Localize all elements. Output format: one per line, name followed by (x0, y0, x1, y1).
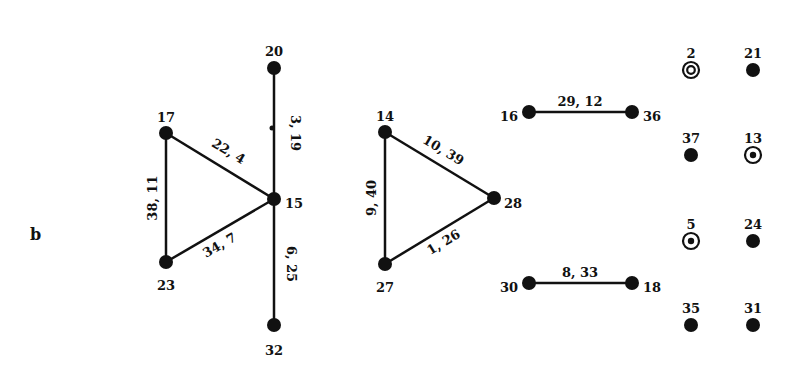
edge-label: 8, 33 (562, 265, 598, 280)
graph-diagram: b 3, 196, 2522, 438, 1134, 710, 399, 401… (0, 0, 802, 368)
node-label: 5 (686, 217, 695, 232)
filled-node-icon (746, 63, 760, 77)
node-31 (746, 318, 760, 332)
filled-node-icon (378, 257, 392, 271)
node-label: 37 (682, 131, 700, 146)
node-labels-layer: 20171523321428271636301822137135243531 (157, 44, 762, 358)
filled-node-icon (378, 125, 392, 139)
filled-node-icon (522, 276, 536, 290)
node-13 (745, 147, 761, 163)
filled-node-icon (159, 255, 173, 269)
nodes-layer (159, 61, 761, 332)
node-label: 28 (504, 196, 522, 211)
edge-label: 9, 40 (364, 180, 379, 216)
node-label: 27 (376, 280, 394, 295)
node-label: 17 (157, 110, 175, 125)
marks-layer (270, 126, 275, 131)
filled-node-icon (684, 148, 698, 162)
filled-node-icon (267, 318, 281, 332)
edge-label: 1, 26 (424, 226, 463, 258)
filled-node-icon (267, 192, 281, 206)
node-label: 16 (500, 109, 518, 124)
node-5 (683, 233, 699, 249)
node-label: 14 (376, 109, 394, 124)
panel-label: b (30, 225, 41, 244)
node-18 (625, 276, 639, 290)
filled-node-icon (267, 61, 281, 75)
node-label: 24 (744, 217, 762, 232)
node-16 (522, 105, 536, 119)
node-label: 18 (643, 280, 661, 295)
node-label: 35 (682, 301, 700, 316)
node-label: 23 (157, 278, 175, 293)
node-label: 21 (744, 46, 762, 61)
node-35 (684, 318, 698, 332)
node-label: 30 (500, 280, 518, 295)
node-15 (267, 192, 281, 206)
node-36 (625, 105, 639, 119)
tick-mark (270, 126, 275, 131)
edge-label: 3, 19 (288, 115, 303, 151)
node-20 (267, 61, 281, 75)
node-28 (487, 191, 501, 205)
filled-node-icon (625, 276, 639, 290)
filled-node-icon (625, 105, 639, 119)
node-label: 15 (285, 196, 303, 211)
edge-label: 34, 7 (200, 230, 239, 261)
node-17 (159, 126, 173, 140)
node-label: 36 (643, 109, 661, 124)
filled-node-icon (487, 191, 501, 205)
node-14 (378, 125, 392, 139)
node-21 (746, 63, 760, 77)
node-24 (746, 234, 760, 248)
node-label: 20 (265, 44, 283, 59)
node-23 (159, 255, 173, 269)
filled-node-icon (684, 318, 698, 332)
node-37 (684, 148, 698, 162)
filled-node-icon (159, 126, 173, 140)
edge-label: 6, 25 (284, 246, 299, 282)
double-ring-node-icon (683, 62, 699, 78)
edge-27-28 (385, 198, 494, 264)
filled-node-icon (522, 105, 536, 119)
edge-labels-layer: 3, 196, 2522, 438, 1134, 710, 399, 401, … (145, 94, 603, 283)
node-2 (683, 62, 699, 78)
node-30 (522, 276, 536, 290)
edge-label: 38, 11 (145, 175, 160, 220)
node-label: 31 (744, 301, 762, 316)
node-label: 32 (265, 343, 283, 358)
edge-label: 29, 12 (557, 94, 602, 109)
node-32 (267, 318, 281, 332)
filled-node-icon (746, 234, 760, 248)
node-label: 13 (744, 131, 762, 146)
filled-node-icon (746, 318, 760, 332)
edge-label: 10, 39 (420, 132, 466, 168)
node-27 (378, 257, 392, 271)
node-label: 2 (686, 46, 695, 61)
